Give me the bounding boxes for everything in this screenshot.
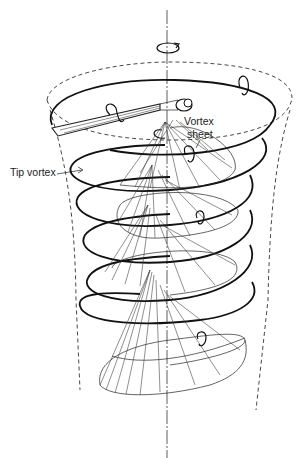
vortex-sheet-cones — [100, 120, 247, 395]
vortex-sheet-label: Vortex — [184, 115, 215, 127]
rotor-hub — [176, 99, 192, 111]
tip-vortex-label: Tip vortex — [10, 166, 56, 178]
vortex-sheet-label-line2: sheet — [187, 128, 213, 140]
tip-vortex-helix — [51, 80, 276, 323]
rotor-wake-diagram: Vortex sheet Tip vortex — [0, 0, 302, 458]
axis-rotation-arrow-icon — [157, 43, 179, 53]
